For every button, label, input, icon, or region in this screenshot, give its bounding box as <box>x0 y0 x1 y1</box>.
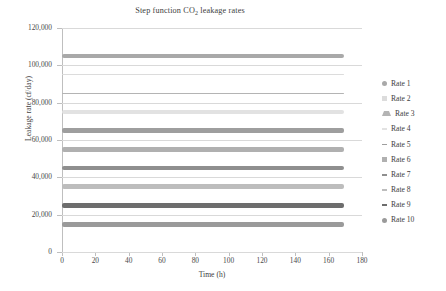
series-line-9 <box>62 203 344 208</box>
gridline <box>62 140 362 141</box>
x-tick-label: 40 <box>114 257 144 264</box>
y-tick-label: 100,000 <box>0 61 52 68</box>
x-axis-title: Time (h) <box>62 270 362 279</box>
dash-marker-icon <box>382 174 387 176</box>
gridline <box>62 65 362 66</box>
chart-title-prefix: Step function CO <box>135 6 195 15</box>
gridline <box>62 103 362 104</box>
x-tick-label: 20 <box>80 257 110 264</box>
legend-label: Rate 1 <box>391 80 411 88</box>
x-tick-label: 120 <box>247 257 277 264</box>
series-line-8 <box>62 184 344 189</box>
circle-marker-icon <box>382 218 387 223</box>
x-tick-label: 100 <box>214 257 244 264</box>
circle-marker-icon <box>382 81 387 86</box>
legend-item-9[interactable]: Rate 9 <box>382 198 446 213</box>
y-tick-label: 120,000 <box>0 24 52 31</box>
dash-marker-icon <box>382 144 387 146</box>
gridline <box>62 177 362 178</box>
legend-label: Rate 6 <box>391 156 411 164</box>
y-tick-label: 80,000 <box>0 99 52 106</box>
x-tick-label: 160 <box>314 257 344 264</box>
legend-label: Rate 3 <box>395 110 415 118</box>
series-line-10 <box>62 222 344 227</box>
legend-item-8[interactable]: Rate 8 <box>382 182 446 197</box>
y-tick-label: 20,000 <box>0 211 52 218</box>
legend-label: Rate 2 <box>391 95 411 103</box>
legend-label: Rate 4 <box>391 125 411 133</box>
legend-item-1[interactable]: Rate 1 <box>382 76 446 91</box>
gridline <box>62 252 362 253</box>
legend-item-10[interactable]: Rate 10 <box>382 213 446 228</box>
legend-label: Rate 5 <box>391 141 411 149</box>
series-line-5 <box>62 128 344 133</box>
dash-marker-icon <box>382 204 387 206</box>
series-line-7 <box>62 166 344 171</box>
legend-item-2[interactable]: Rate 2 <box>382 91 446 106</box>
dash-marker-icon <box>382 189 387 191</box>
series-line-6 <box>62 147 344 152</box>
gridline <box>62 28 362 29</box>
chart-legend: Rate 1Rate 2Rate 3Rate 4Rate 5Rate 6Rate… <box>382 76 446 228</box>
chart-title-subscript: 2 <box>195 10 198 16</box>
chart-title: Step function CO2 leakage rates <box>0 6 380 15</box>
legend-item-6[interactable]: Rate 6 <box>382 152 446 167</box>
legend-label: Rate 8 <box>391 186 411 194</box>
y-tick-label: 60,000 <box>0 136 52 143</box>
series-line-2 <box>62 74 344 76</box>
y-tick-label: 40,000 <box>0 173 52 180</box>
triangle-marker-icon <box>382 111 391 116</box>
square-marker-icon <box>382 96 387 101</box>
legend-item-5[interactable]: Rate 5 <box>382 137 446 152</box>
x-tick-label: 60 <box>147 257 177 264</box>
y-tick-label: 0 <box>0 248 52 255</box>
x-tick-label: 140 <box>280 257 310 264</box>
legend-item-4[interactable]: Rate 4 <box>382 122 446 137</box>
legend-label: Rate 10 <box>391 216 414 224</box>
x-tick-label: 80 <box>180 257 210 264</box>
square-marker-icon <box>382 157 387 162</box>
legend-label: Rate 7 <box>391 171 411 179</box>
gridline <box>62 215 362 216</box>
x-tick-label: 0 <box>47 257 77 264</box>
chart-title-suffix: leakage rates <box>198 6 245 15</box>
series-line-4 <box>62 110 344 114</box>
series-line-3 <box>62 93 344 95</box>
legend-label: Rate 9 <box>391 201 411 209</box>
legend-item-7[interactable]: Rate 7 <box>382 167 446 182</box>
x-tick-label: 180 <box>347 257 377 264</box>
plot-area <box>62 28 362 252</box>
series-line-1 <box>62 54 344 58</box>
dash-marker-icon <box>382 128 387 130</box>
legend-item-3[interactable]: Rate 3 <box>382 106 446 121</box>
chart-container: Step function CO2 leakage rates Leakage … <box>0 0 446 291</box>
